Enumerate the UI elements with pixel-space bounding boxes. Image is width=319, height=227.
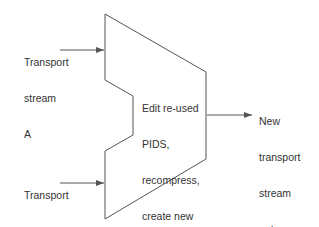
input-a-line-1: Transport	[24, 56, 69, 68]
input-a-line-3: A	[24, 128, 69, 140]
input-b-line-1: Transport	[24, 189, 69, 201]
input-b-line-2: stream	[24, 225, 69, 227]
output-line-1: New	[259, 115, 300, 127]
output-line-3: stream	[259, 187, 300, 199]
process-line-3: recompress,	[142, 174, 200, 186]
process-line-1: Edit re-used	[142, 102, 200, 114]
input-a-line-2: stream	[24, 92, 69, 104]
process-line-4: create new	[142, 210, 200, 222]
output-label: New transport stream out	[259, 91, 300, 227]
process-line-2: PIDS,	[142, 138, 200, 150]
diagram-canvas: Transport stream A Transport stream B Ed…	[0, 0, 319, 227]
output-line-2: transport	[259, 151, 300, 163]
input-a-label: Transport stream A	[24, 32, 69, 164]
process-label: Edit re-used PIDS, recompress, create ne…	[142, 78, 200, 227]
output-line-4: out	[259, 223, 300, 227]
input-b-label: Transport stream B	[24, 165, 69, 227]
